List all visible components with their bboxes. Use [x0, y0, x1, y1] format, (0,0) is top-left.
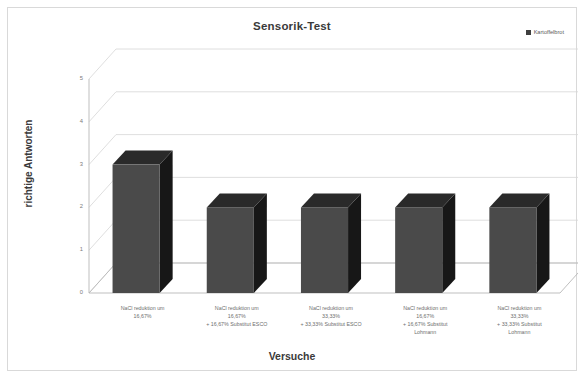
y-axis-tick-label: 4: [63, 118, 83, 124]
y-axis-tick-label: 0: [63, 289, 83, 295]
x-axis-category-label: NaCl reduktion um33,33%+ 33,33% Substitu…: [473, 305, 565, 337]
y-axis-tick-label: 1: [63, 246, 83, 252]
x-axis-category-label: NaCl reduktion um33,33%+ 33,33% Substitu…: [285, 305, 377, 329]
x-axis-category-label: NaCl reduktion um16,67%: [97, 305, 189, 321]
y-axis-tick-label: 5: [63, 75, 83, 81]
chart-container: Sensorik-Test Kartoffelbrot richtige Ant…: [7, 7, 577, 371]
plot-area: NaCl reduktion um16,67%NaCl reduktion um…: [8, 8, 578, 372]
y-axis-tick-label: 2: [63, 203, 83, 209]
y-axis-tick-label: 3: [63, 161, 83, 167]
x-axis-category-label: NaCl reduktion um16,67%+ 16,67% Substitu…: [191, 305, 283, 329]
x-axis-category-label: NaCl reduktion um16,67%+ 16,67% Substitu…: [379, 305, 471, 337]
